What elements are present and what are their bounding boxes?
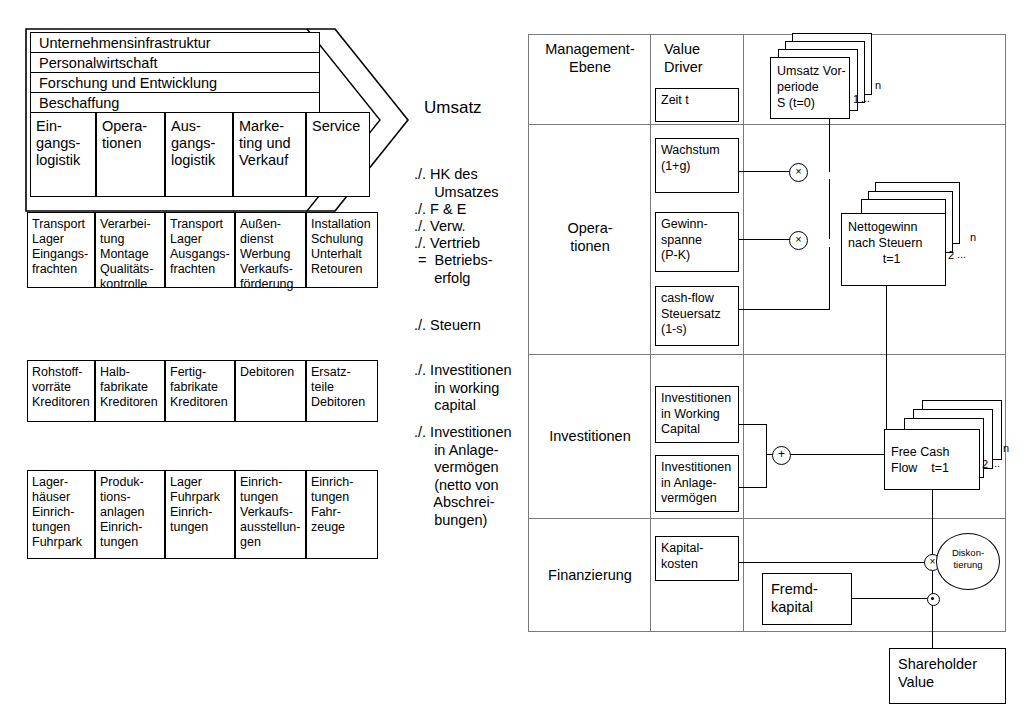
connector (829, 179, 830, 239)
table-cell: Lager Fuhrpark Einrich- tungen (165, 470, 235, 559)
table-cell: Lager- häuser Einrich- tungen Fuhrpark (27, 470, 95, 559)
table-cell: Transport Lager Ausgangs- frachten (165, 212, 235, 288)
primary-activity-inbound-logistics: Ein- gangs- logistik (30, 112, 96, 197)
discount-ellipse: Diskon- tierung (936, 533, 1000, 590)
value-driver-kapitalkosten: Kapital- kosten (655, 536, 739, 581)
support-activity-label: Forschung und Entwicklung (39, 75, 217, 91)
value-driver-zeit: Zeit t (655, 88, 739, 122)
stack-index-first: 2 (948, 250, 954, 261)
calculation-title: Umsatz (424, 98, 482, 118)
stack-index-first: 1 (853, 94, 859, 105)
connector (789, 454, 887, 455)
table-cell: Transport Lager Eingangs- frachten (27, 212, 95, 288)
support-activity-label: Unternehmensinfrastruktur (39, 35, 211, 51)
subtract-operator-dot (931, 597, 934, 600)
connector (766, 424, 767, 488)
table-cell: Rohstoff- vorräte Kreditoren (27, 360, 95, 422)
table-cell: Außen- dienst Werbung Verkaufs- förderun… (235, 212, 306, 288)
stack-index-first: 2 (982, 459, 988, 470)
matrix-level-investments: Investitionen (534, 427, 646, 445)
stack-front-card: Free Cash Flow t=1 (884, 429, 980, 490)
connector (739, 424, 767, 425)
calculation-line: ./. HK des Umsatzes (414, 166, 499, 201)
table-cell: Produk- tions- anlagen Einrich- tungen (95, 470, 165, 559)
matrix-level-financing: Finanzierung (534, 566, 646, 584)
calculation-line: ./. Investitionen in working capital (414, 362, 512, 415)
connector (739, 239, 791, 240)
connector (739, 171, 791, 172)
support-activity-label: Beschaffung (39, 95, 119, 111)
connector (739, 487, 767, 488)
matrix-row-divider (528, 518, 1006, 519)
table-cell: Halb- fabrikate Kreditoren (95, 360, 165, 422)
support-activity-rnd: Forschung und Entwicklung (30, 72, 320, 93)
calculation-line: ./. Investitionen in Anlage- vermögen (n… (414, 424, 512, 529)
stack-index-last: n (875, 80, 881, 91)
stack-index-dots: ... (861, 93, 870, 104)
connector (829, 247, 830, 310)
value-driver-wachstum: Wachstum (1+g) (655, 138, 739, 193)
primary-activity-service: Service (306, 112, 370, 197)
support-activity-label: Personalwirtschaft (39, 55, 157, 71)
multiply-operator-mid: × (789, 231, 808, 250)
multiply-operator-top: × (789, 163, 808, 182)
primary-activity-marketing-sales: Marke- ting und Verkauf (233, 112, 306, 197)
calculation-line: ./. F & E (414, 201, 466, 219)
table-cell: Installation Schulung Unterhalt Retouren (306, 212, 378, 288)
calculation-line: ./. Verw. (414, 218, 466, 236)
support-activity-procurement: Beschaffung (30, 92, 320, 113)
plus-operator: + (772, 446, 791, 465)
connector (739, 562, 925, 563)
table-cell: Verarbei- tung Montage Qualitäts- kontro… (95, 212, 165, 288)
stack-index-dots: ... (957, 249, 966, 260)
connector (851, 598, 927, 599)
matrix-col-divider (743, 34, 744, 632)
calculation-line: ./. Vertrieb (414, 235, 480, 253)
value-driver-gewinnspanne: Gewinn- spanne (P-K) (655, 212, 739, 272)
primary-activity-operations: Opera- tionen (96, 112, 165, 197)
support-activity-infrastructure: Unternehmensinfrastruktur (30, 32, 320, 53)
table-cell: Debitoren (235, 360, 306, 422)
matrix-row-divider (528, 124, 1006, 125)
calculation-line: ./. Steuern (414, 317, 481, 335)
matrix-header-value-driver: Value Driver (656, 40, 746, 76)
connector (932, 490, 933, 598)
matrix-col-divider (650, 34, 651, 632)
primary-activity-outbound-logistics: Aus- gangs- logistik (165, 112, 233, 197)
stack-front-card: Umsatz Vor- periode S (t=0) (770, 57, 850, 119)
connector (739, 309, 830, 310)
stack-front-card: Nettogewinn nach Steuern t=1 (841, 213, 946, 286)
stack-index-last: n (1003, 443, 1009, 454)
matrix-level-operations: Opera- tionen (534, 219, 646, 255)
table-cell: Einrich- tungen Fahr- zeuge (306, 470, 378, 559)
matrix-row-divider (528, 354, 1006, 355)
diagram-canvas: Unternehmensinfrastruktur Personalwirtsc… (0, 0, 1034, 724)
stack-index-last: n (970, 232, 976, 243)
table-cell: Fertig- fabrikate Kreditoren (165, 360, 235, 422)
table-cell: Einrich- tungen Verkaufs- ausstellun- ge… (235, 470, 306, 559)
shareholder-value-box: Shareholder Value (889, 648, 1006, 704)
connector (829, 118, 830, 172)
value-driver-investitionen-working-capital: Investitionen in Working Capital (655, 386, 739, 443)
stack-index-dots: ... (991, 458, 1000, 469)
debt-capital-box: Fremd- kapital (762, 573, 852, 625)
support-activity-hr: Personalwirtschaft (30, 52, 320, 73)
value-driver-cashflow-steuersatz: cash-flow Steuersatz (1-s) (655, 286, 739, 346)
table-cell: Ersatz- teile Debitoren (306, 360, 378, 422)
calculation-line: = Betriebs- erfolg (414, 252, 493, 287)
value-driver-investitionen-anlagevermoegen: Investitionen in Anlage- vermögen (655, 455, 739, 512)
matrix-header-management-level: Management- Ebene (534, 40, 646, 76)
